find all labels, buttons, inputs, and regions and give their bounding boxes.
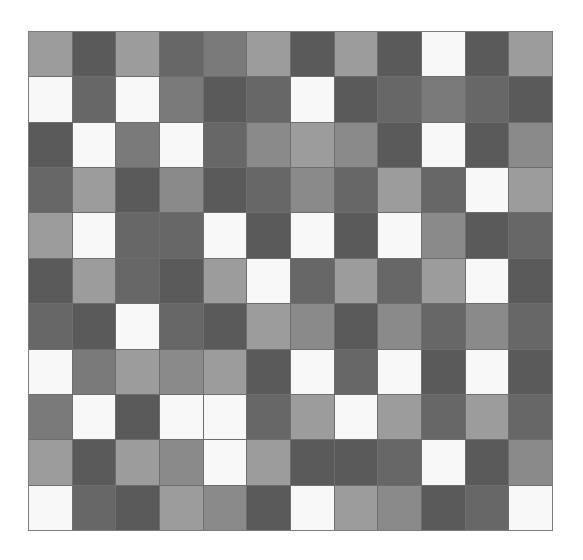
grid-cell <box>291 350 334 394</box>
grid-cell <box>73 32 116 76</box>
grid-cell <box>466 350 509 394</box>
grid-cell <box>116 123 159 167</box>
grid-cell <box>335 77 378 121</box>
grid-cell <box>160 32 203 76</box>
grid-cell <box>247 213 290 257</box>
grid-cell <box>29 168 72 212</box>
grid-cell <box>160 123 203 167</box>
grid-cell <box>291 168 334 212</box>
grid-cell <box>116 440 159 484</box>
grid-cell <box>204 123 247 167</box>
grid-cell <box>73 259 116 303</box>
grid-cell <box>204 168 247 212</box>
grid-cell <box>73 486 116 530</box>
grid-cell <box>378 486 421 530</box>
grid-cell <box>422 259 465 303</box>
grid-cell <box>29 32 72 76</box>
grid-cell <box>247 350 290 394</box>
grid-cell <box>422 168 465 212</box>
grid-cell <box>291 304 334 348</box>
grid-cell <box>509 350 552 394</box>
grid-cell <box>422 123 465 167</box>
grid-cell <box>466 486 509 530</box>
grid-cell <box>335 440 378 484</box>
grid-cell <box>422 350 465 394</box>
grid-cell <box>291 486 334 530</box>
grid-cell <box>291 259 334 303</box>
grid-cell <box>73 395 116 439</box>
grid-cell <box>509 440 552 484</box>
grid-cell <box>291 77 334 121</box>
grid-cell <box>204 350 247 394</box>
grid-cell <box>509 32 552 76</box>
grid-cell <box>204 440 247 484</box>
grid-cell <box>116 213 159 257</box>
grid-cell <box>204 213 247 257</box>
grid-cell <box>378 440 421 484</box>
grid-cell <box>335 486 378 530</box>
grid-cell <box>466 440 509 484</box>
grid-cell <box>73 77 116 121</box>
grid-cell <box>247 304 290 348</box>
grid-cell <box>378 304 421 348</box>
grid-cell <box>335 123 378 167</box>
grid-cell <box>509 77 552 121</box>
grid-cell <box>73 213 116 257</box>
grid-cell <box>466 395 509 439</box>
grid-cell <box>160 259 203 303</box>
grid-cell <box>466 213 509 257</box>
grid-cell <box>335 259 378 303</box>
grid-cell <box>116 77 159 121</box>
grid-cell <box>509 486 552 530</box>
grid-cell <box>378 350 421 394</box>
grid-cell <box>509 395 552 439</box>
grid-cell <box>291 32 334 76</box>
grid-cell <box>160 304 203 348</box>
grid-cell <box>335 350 378 394</box>
grid-cell <box>247 395 290 439</box>
grid-cell <box>466 77 509 121</box>
grid-cell <box>466 304 509 348</box>
grid-cell <box>29 259 72 303</box>
grayscale-tile-grid <box>28 31 553 531</box>
grid-cell <box>29 77 72 121</box>
grid-cell <box>378 213 421 257</box>
grid-cell <box>291 123 334 167</box>
grid-cell <box>378 259 421 303</box>
grid-cell <box>116 486 159 530</box>
grid-cell <box>73 123 116 167</box>
grid-cell <box>160 350 203 394</box>
grid-cell <box>335 304 378 348</box>
grid-cell <box>204 304 247 348</box>
grid-cell <box>116 32 159 76</box>
grid-cell <box>160 486 203 530</box>
grid-cell <box>422 440 465 484</box>
grid-cell <box>73 350 116 394</box>
grid-cell <box>73 304 116 348</box>
grid-cell <box>378 395 421 439</box>
grid-cell <box>73 440 116 484</box>
grid-cell <box>335 32 378 76</box>
grid-cell <box>204 486 247 530</box>
grid-cell <box>335 168 378 212</box>
grid-cell <box>509 123 552 167</box>
grid-cell <box>422 486 465 530</box>
grid-cell <box>247 123 290 167</box>
grid-cell <box>116 350 159 394</box>
grid-cell <box>247 440 290 484</box>
grid-cell <box>378 32 421 76</box>
grid-cell <box>160 440 203 484</box>
grid-cell <box>29 350 72 394</box>
grid-cell <box>116 259 159 303</box>
grid-cell <box>378 168 421 212</box>
grid-cell <box>378 77 421 121</box>
grid-cell <box>29 440 72 484</box>
grid-cell <box>247 259 290 303</box>
grid-cell <box>204 77 247 121</box>
grid-cell <box>509 168 552 212</box>
grid-cell <box>116 395 159 439</box>
grid-cell <box>422 213 465 257</box>
grid-cell <box>160 77 203 121</box>
grid-cell <box>160 213 203 257</box>
grid-cell <box>29 486 72 530</box>
